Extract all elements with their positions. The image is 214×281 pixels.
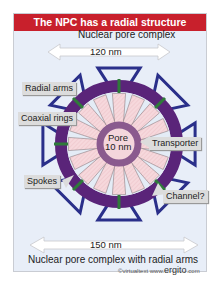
transporter-label: Transporter: [149, 137, 201, 150]
coaxial-rings-label: Coaxial rings: [18, 112, 76, 125]
pore-label-line2: 10 nm: [105, 141, 131, 152]
radial-arms-label: Radial arms: [22, 82, 76, 95]
channel-label: Channel?: [163, 190, 208, 203]
top-dimension-value: 120 nm: [90, 46, 122, 57]
bottom-dimension-caption: Nuclear pore complex with radial arms: [28, 254, 198, 265]
credit-brand: ergito: [164, 265, 187, 275]
spokes-label: Spokes: [24, 175, 60, 188]
credit-prefix: ©virtualtext www.: [118, 268, 164, 274]
credit-line: ©virtualtext www.ergito.com: [118, 265, 200, 275]
top-dimension-caption: Nuclear pore complex: [78, 29, 175, 40]
bottom-dimension-value: 150 nm: [90, 239, 122, 250]
credit-suffix: .com: [187, 268, 200, 274]
